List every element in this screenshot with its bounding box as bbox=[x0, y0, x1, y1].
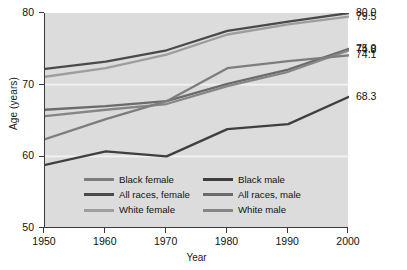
legend-swatch-icon bbox=[84, 193, 114, 196]
x-tick-1990 bbox=[287, 228, 288, 233]
legend-item-all-races-female[interactable]: All races, female bbox=[84, 190, 197, 200]
legend-swatch-icon bbox=[84, 209, 114, 212]
x-tick-label-1980: 1980 bbox=[203, 235, 249, 247]
legend-label: White female bbox=[119, 205, 175, 215]
end-label-black-female: 74.1 bbox=[356, 48, 376, 60]
legend-item-white-male[interactable]: White male bbox=[203, 205, 316, 215]
x-tick-1970 bbox=[165, 228, 166, 233]
legend-label: White male bbox=[238, 205, 286, 215]
legend-swatch-icon bbox=[84, 178, 114, 181]
x-tick-label-2000: 2000 bbox=[325, 235, 371, 247]
series-line-black-female bbox=[45, 55, 349, 139]
end-label-white-female: 79.5 bbox=[356, 10, 376, 22]
x-tick-label-1950: 1950 bbox=[21, 235, 67, 247]
y-tick-label-60: 60 bbox=[0, 149, 34, 161]
end-label-black-male: 68.3 bbox=[356, 90, 376, 102]
x-tick-label-1990: 1990 bbox=[264, 235, 310, 247]
series-line-white-female bbox=[45, 17, 349, 77]
x-tick-label-1970: 1970 bbox=[143, 235, 189, 247]
legend-label: Black male bbox=[238, 175, 285, 185]
legend-swatch-icon bbox=[203, 193, 233, 196]
x-tick-2000 bbox=[347, 228, 348, 233]
legend-item-black-female[interactable]: Black female bbox=[84, 175, 197, 185]
x-tick-1960 bbox=[104, 228, 105, 233]
series-line-all-races-male bbox=[45, 49, 349, 110]
x-tick-1980 bbox=[226, 228, 227, 233]
legend-label: Black female bbox=[119, 175, 174, 185]
legend-swatch-icon bbox=[203, 209, 233, 212]
y-tick-label-80: 80 bbox=[0, 6, 34, 18]
legend-label: All races, male bbox=[238, 190, 301, 200]
chart-root: Age (years) 50607080 1950196019701980199… bbox=[0, 0, 407, 270]
y-tick-label-50: 50 bbox=[0, 221, 34, 233]
legend-swatch-icon bbox=[203, 178, 233, 181]
legend: Black femaleBlack maleAll races, femaleA… bbox=[84, 172, 316, 218]
legend-item-all-races-male[interactable]: All races, male bbox=[203, 190, 316, 200]
legend-label: All races, female bbox=[119, 190, 190, 200]
x-tick-label-1960: 1960 bbox=[82, 235, 128, 247]
x-axis-label: Year bbox=[44, 252, 349, 263]
y-tick-label-70: 70 bbox=[0, 78, 34, 90]
x-tick-1950 bbox=[43, 228, 44, 233]
legend-item-black-male[interactable]: Black male bbox=[203, 175, 316, 185]
legend-item-white-female[interactable]: White female bbox=[84, 205, 197, 215]
